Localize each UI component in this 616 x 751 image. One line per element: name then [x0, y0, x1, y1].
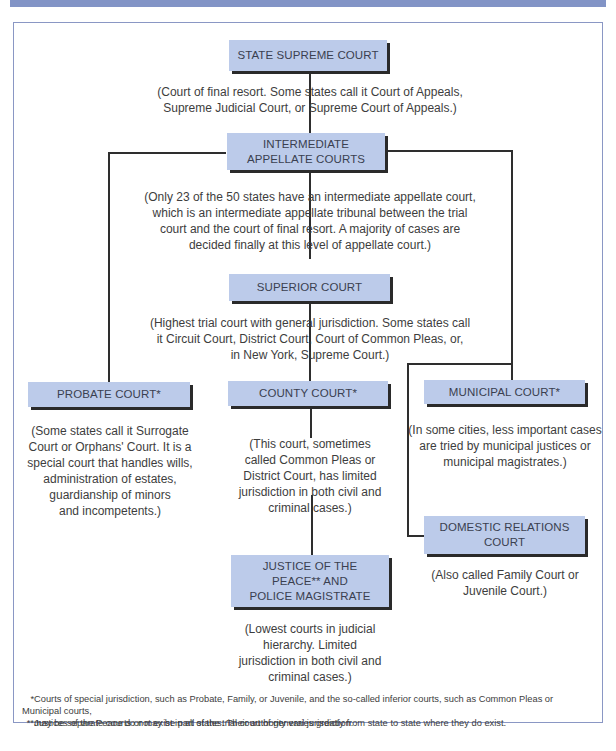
node-justice-of-the-peace: JUSTICE OF THE PEACE** AND POLICE MAGIST…: [231, 555, 389, 607]
desc-justice-of-the-peace: (Lowest courts in judicial hierarchy. Li…: [230, 621, 390, 685]
desc-line: jurisdiction in both civil and: [230, 653, 390, 669]
node-label: PROBATE COURT*: [57, 387, 161, 402]
desc-state-supreme-court: (Court of final resort. Some states call…: [130, 84, 490, 116]
desc-line: criminal cases.): [230, 669, 390, 685]
desc-line: are tried by municipal justices or: [408, 438, 602, 454]
node-label: MUNICIPAL COURT*: [449, 385, 560, 400]
desc-intermediate-appellate-courts: (Only 23 of the 50 states have an interm…: [120, 189, 500, 253]
node-label-line: DOMESTIC RELATIONS: [439, 520, 569, 535]
node-county-court: COUNTY COURT*: [228, 381, 388, 406]
node-label-line: APPELLATE COURTS: [247, 152, 365, 167]
desc-line: hierarchy. Limited: [230, 637, 390, 653]
connector-intermediate-right: [386, 150, 512, 152]
desc-line: in New York, Supreme Court.): [120, 347, 500, 363]
desc-domestic-relations-court: (Also called Family Court or Juvenile Co…: [420, 567, 590, 599]
desc-line: which is an intermediate appellate tribu…: [120, 205, 500, 221]
desc-line: (In some cities, less important cases: [408, 422, 602, 438]
node-label: COUNTY COURT*: [259, 386, 357, 401]
desc-line: guardianship of minors: [20, 487, 200, 503]
desc-line: jurisdiction in both civil and: [230, 484, 390, 500]
connector-domestic-horizontal: [407, 535, 424, 537]
desc-line: decided finally at this level of appella…: [120, 237, 500, 253]
desc-line: (Highest trial court with general jurisd…: [120, 315, 500, 331]
node-label-line: COURT: [484, 535, 525, 550]
node-superior-court: SUPERIOR COURT: [229, 274, 390, 301]
node-intermediate-appellate-courts: INTERMEDIATE APPELLATE COURTS: [227, 133, 385, 170]
node-label-line: POLICE MAGISTRATE: [250, 589, 371, 604]
node-label-line: JUSTICE OF THE: [263, 559, 357, 574]
desc-line: court and the court of final resort. A m…: [120, 221, 500, 237]
desc-line: (Only 23 of the 50 states have an interm…: [120, 189, 500, 205]
desc-line: (Also called Family Court or: [420, 567, 590, 583]
node-label: SUPERIOR COURT: [257, 280, 362, 295]
desc-line: special court that handles wills,: [20, 455, 200, 471]
desc-line: called Common Pleas or: [230, 452, 390, 468]
connector-county-to-justice: [310, 408, 312, 438]
desc-probate-court: (Some states call it Surrogate Court or …: [20, 423, 200, 519]
desc-line: it Circuit Court, District Court, Court …: [120, 331, 500, 347]
desc-line: and incompetents.): [20, 503, 200, 519]
footnote-text: Courts of special jurisdiction, such as …: [22, 694, 553, 716]
desc-superior-court: (Highest trial court with general jurisd…: [120, 315, 500, 363]
desc-line: administration of estates,: [20, 471, 200, 487]
footnote-marker: *: [22, 693, 34, 705]
connector-intermediate-left: [108, 152, 226, 154]
desc-line: District Court, has limited: [230, 468, 390, 484]
connector-left-to-probate: [108, 152, 110, 382]
node-probate-court: PROBATE COURT*: [28, 382, 190, 407]
node-label-line: INTERMEDIATE: [263, 137, 349, 152]
desc-line: Court or Orphans' Court. It is a: [20, 439, 200, 455]
desc-line: Juvenile Court.): [420, 583, 590, 599]
desc-line: municipal magistrates.): [408, 454, 602, 470]
desc-municipal-court: (In some cities, less important cases ar…: [408, 422, 602, 470]
desc-line: (Court of final resort. Some states call…: [130, 84, 490, 100]
desc-line: (Lowest courts in judicial: [230, 621, 390, 637]
title-bar: [10, 0, 606, 7]
node-domestic-relations-court: DOMESTIC RELATIONS COURT: [424, 516, 585, 554]
desc-line: criminal cases.): [230, 500, 390, 516]
connector-right-to-municipal: [511, 150, 513, 380]
diagram-frame: [13, 22, 603, 723]
node-municipal-court: MUNICIPAL COURT*: [424, 380, 585, 404]
desc-line: (This court, sometimes: [230, 436, 390, 452]
desc-line: Supreme Judicial Court, or Supreme Court…: [130, 100, 490, 116]
node-state-supreme-court: STATE SUPREME COURT: [229, 40, 387, 71]
connector-branch-to-domestic: [407, 363, 512, 365]
desc-county-court: (This court, sometimes called Common Ple…: [230, 436, 390, 516]
footnote-marker: **: [22, 717, 34, 729]
node-label-line: PEACE** AND: [272, 574, 348, 589]
node-label: STATE SUPREME COURT: [237, 48, 378, 63]
desc-line: (Some states call it Surrogate: [20, 423, 200, 439]
footnote-double-asterisk: **Justices of the Peace do not exist in …: [22, 717, 592, 729]
footnote-text: Justices of the Peace do not exist in al…: [34, 718, 506, 728]
